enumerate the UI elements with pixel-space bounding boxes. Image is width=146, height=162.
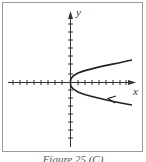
x-axis-label: x [133, 86, 138, 97]
y-axis-arrow-icon [68, 11, 73, 19]
x-axis [8, 80, 136, 85]
graph-plot [0, 0, 146, 162]
y-axis-label: y [76, 7, 81, 18]
figure-caption: Figure 25 (C) [0, 154, 146, 162]
